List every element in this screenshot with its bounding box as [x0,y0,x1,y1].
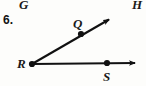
point-r-dot [29,61,35,67]
point-label-r: R [17,57,26,70]
point-label-q: Q [73,17,82,30]
point-label-s: S [103,70,110,83]
angle-diagram [0,0,146,86]
ray-rq-line [32,20,109,65]
point-s-dot [104,60,110,66]
geometry-figure-panel: G H 6. Q R S [0,0,146,86]
ray-rs-line [32,63,135,64]
point-q-dot [78,31,84,37]
